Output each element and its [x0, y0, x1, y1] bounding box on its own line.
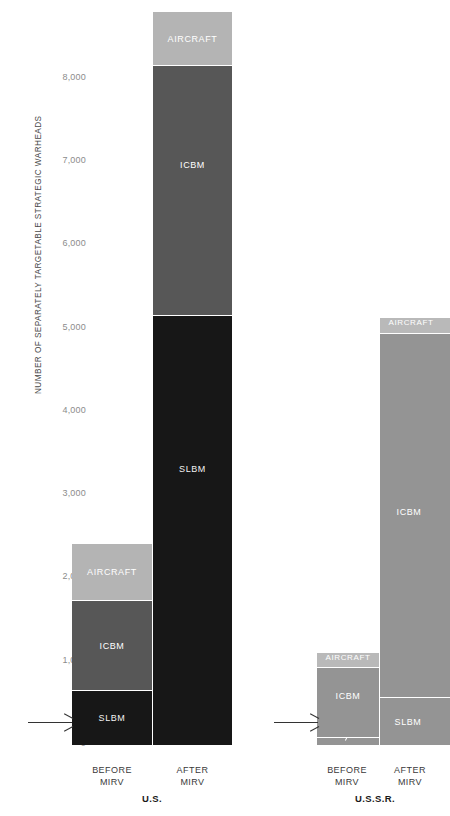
y-tick-5000: 5,000: [30, 322, 86, 332]
segment-label-icbm: ICBM: [100, 641, 125, 651]
bar-ussr-before-mirv[interactable]: AIRCRAFT ICBM SLBM: [317, 653, 379, 745]
segment-label-aircraft: AIRCRAFT: [389, 318, 434, 327]
segment-label-slbm: SLBM: [99, 713, 126, 723]
bar-us-after-mirv[interactable]: AIRCRAFT ICBM SLBM: [153, 12, 232, 745]
group-label-ussr: U.S.S.R.: [315, 793, 435, 804]
bar-ussr-after-mirv[interactable]: AIRCRAFT ICBM SLBM: [380, 318, 450, 745]
xlabel-ussr-before: BEFORE MIRV: [315, 764, 379, 788]
xlabel-us-after: AFTER MIRV: [153, 764, 232, 788]
y-tick-7000: 7,000: [30, 155, 86, 165]
segment-label-aircraft: AIRCRAFT: [326, 653, 371, 662]
segment-label-icbm: ICBM: [180, 160, 205, 170]
segment-slbm[interactable]: SLBM: [317, 737, 379, 745]
segment-icbm[interactable]: ICBM: [317, 667, 379, 737]
y-tick-6000: 6,000: [30, 238, 86, 248]
segment-slbm[interactable]: SLBM: [153, 315, 232, 745]
segment-label-slbm: SLBM: [179, 464, 206, 474]
segment-icbm[interactable]: ICBM: [380, 333, 450, 697]
segment-aircraft[interactable]: AIRCRAFT: [72, 544, 152, 600]
segment-label-icbm: ICBM: [397, 507, 422, 517]
bar-us-before-mirv[interactable]: AIRCRAFT ICBM SLBM: [72, 544, 152, 745]
segment-aircraft[interactable]: AIRCRAFT: [380, 318, 450, 333]
y-tick-3000: 3,000: [30, 488, 86, 498]
segment-slbm[interactable]: SLBM: [72, 690, 152, 745]
slbm-leader-line: [345, 737, 352, 741]
segment-aircraft[interactable]: AIRCRAFT: [317, 653, 379, 667]
xlabel-ussr-after: AFTER MIRV: [380, 764, 440, 788]
segment-label-slbm: SLBM: [395, 717, 422, 727]
segment-icbm[interactable]: ICBM: [153, 65, 232, 315]
segment-label-aircraft: AIRCRAFT: [87, 567, 137, 577]
y-tick-4000: 4,000: [30, 405, 86, 415]
annotation-arrow-ussr: [274, 717, 318, 728]
segment-slbm[interactable]: SLBM: [380, 697, 450, 745]
y-tick-8000: 8,000: [30, 72, 86, 82]
segment-label-icbm: ICBM: [336, 691, 361, 701]
group-label-us: U.S.: [72, 793, 232, 804]
xlabel-us-before: BEFORE MIRV: [72, 764, 152, 788]
segment-label-aircraft: AIRCRAFT: [168, 34, 218, 44]
segment-aircraft[interactable]: AIRCRAFT: [153, 12, 232, 65]
segment-icbm[interactable]: ICBM: [72, 600, 152, 690]
annotation-arrow-us: [28, 717, 72, 728]
